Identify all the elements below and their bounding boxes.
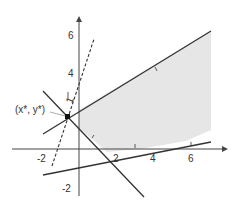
- gradient-label: 1: [64, 95, 76, 104]
- optimum-point: [65, 114, 70, 119]
- x-tick-6: 6: [188, 153, 194, 164]
- x-tick-2: 2: [113, 153, 119, 164]
- x-tick-neg2: -2: [37, 153, 46, 164]
- y-tick-4: 4: [68, 68, 74, 79]
- x-axis-arrow-icon: [222, 146, 228, 152]
- point-label: (x*, y*): [15, 104, 45, 115]
- feasible-region: [79, 31, 211, 152]
- y-tick-6: 6: [68, 30, 74, 41]
- y-axis-arrow-icon: [76, 16, 82, 22]
- x-tick-4: 4: [150, 153, 156, 164]
- lp-diagram: (x*, y*) 1 -2 2 4 6 6 4 -2: [0, 0, 231, 210]
- y-tick-neg2: -2: [62, 183, 71, 194]
